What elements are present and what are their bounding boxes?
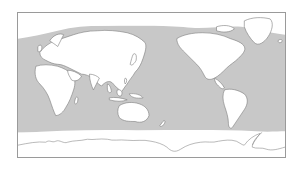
borneo [117,90,122,96]
world-map [17,12,286,158]
iceland [278,40,282,43]
southern-sea-ice [18,130,285,157]
world-map-graphic [18,13,285,157]
